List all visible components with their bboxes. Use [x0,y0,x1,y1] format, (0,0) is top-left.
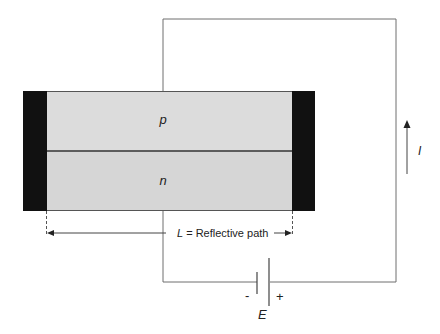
n-layer [46,151,292,211]
arrowhead-left-icon [47,230,54,236]
pn-junction-diagram: p n L = Reflective path I - + E [0,0,440,334]
left-contact [23,91,47,211]
reflective-path-label: L = Reflective path [177,227,268,239]
n-label: n [159,173,166,188]
emf-label: E [258,307,267,322]
battery-minus-label: - [245,288,249,303]
p-label: p [158,112,166,127]
arrowhead-right-icon [285,230,292,236]
p-layer [46,91,292,151]
current-label: I [418,144,422,158]
bottom-wire [163,211,257,282]
current-arrowhead-icon [404,120,411,128]
battery-plus-label: + [276,289,284,304]
right-contact [292,91,315,211]
